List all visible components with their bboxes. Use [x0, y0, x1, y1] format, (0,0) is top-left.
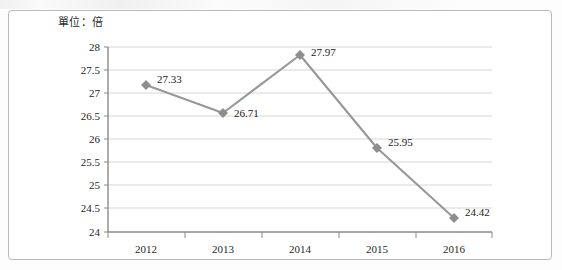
data-label-2016: 24.42: [465, 207, 490, 218]
x-tick-label-2015: 2015: [347, 243, 407, 255]
data-label-2013: 26.71: [234, 108, 259, 119]
x-axis-ticks: [108, 232, 492, 238]
data-label-2014: 27.97: [311, 47, 336, 58]
x-tick-label-2012: 2012: [116, 243, 176, 255]
data-point-2012[interactable]: [141, 80, 151, 90]
x-tick-label-2013: 2013: [193, 243, 253, 255]
y-tick-label: 25.5: [62, 157, 100, 168]
y-tick-label: 26: [62, 134, 100, 145]
gridlines: [108, 47, 492, 208]
data-label-2012: 27.33: [157, 74, 182, 85]
y-tick-label: 24.5: [62, 203, 100, 214]
y-tick-label: 27.5: [62, 65, 100, 76]
y-tick-label: 25: [62, 180, 100, 191]
line-chart: 28 27.5 27 26.5 26 25.5 25 24.5 24 2012 …: [0, 0, 562, 270]
x-tick-label-2016: 2016: [424, 243, 484, 255]
data-label-2015: 25.95: [388, 137, 413, 148]
figure-page: 單位：倍: [0, 0, 562, 270]
y-tick-label: 26.5: [62, 111, 100, 122]
y-tick-label: 28: [62, 42, 100, 53]
y-tick-label: 24: [62, 227, 100, 238]
y-tick-label: 27: [62, 88, 100, 99]
x-tick-label-2014: 2014: [270, 243, 330, 255]
